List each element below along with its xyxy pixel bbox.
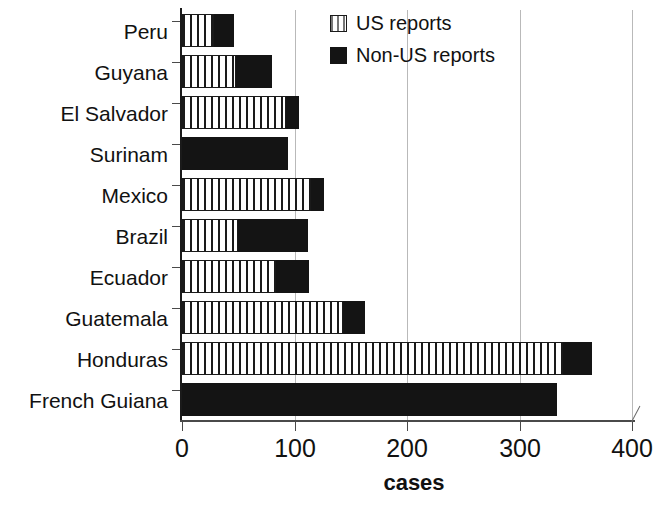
bar-segment-non-us-reports <box>182 137 288 170</box>
legend-label-us-reports: US reports <box>356 13 452 33</box>
bar-row <box>182 338 633 379</box>
bar-segment-us-reports <box>182 55 236 88</box>
bar-row <box>182 133 633 174</box>
bar-row <box>182 379 633 420</box>
bar-row <box>182 215 633 256</box>
bar-segment-non-us-reports <box>563 342 592 375</box>
x-axis-label-100: 100 <box>255 434 335 462</box>
solid-black-swatch-icon <box>330 47 347 64</box>
legend-label-non-us-reports: Non-US reports <box>356 45 495 65</box>
bar-segment-non-us-reports <box>311 178 325 211</box>
y-axis-label-5: Brazil <box>0 226 168 248</box>
y-axis-label-1: Guyana <box>0 62 168 84</box>
y-axis-label-0: Peru <box>0 21 168 43</box>
y-axis-label-9: French Guiana <box>0 390 168 412</box>
x-axis-tick-200 <box>407 422 408 431</box>
bar-segment-us-reports <box>182 14 214 47</box>
x-axis-label-0: 0 <box>142 434 222 462</box>
bar-segment-non-us-reports <box>276 260 310 293</box>
y-axis-labels: Peru Guyana El Salvador Surinam Mexico B… <box>0 10 176 420</box>
bar-segment-non-us-reports <box>238 219 308 252</box>
bar-segment-non-us-reports <box>286 96 300 129</box>
chart-legend: US reports Non-US reports <box>330 12 495 76</box>
x-axis-label-400: 400 <box>592 434 668 462</box>
x-axis-label-300: 300 <box>480 434 560 462</box>
x-axis-tick-0 <box>182 422 183 431</box>
stacked-bar[interactable] <box>182 14 234 47</box>
stacked-bar[interactable] <box>182 219 308 252</box>
y-axis-label-4: Mexico <box>0 185 168 207</box>
bar-segment-us-reports <box>182 96 286 129</box>
stacked-bar[interactable] <box>182 55 272 88</box>
stacked-bar[interactable] <box>182 301 365 334</box>
y-axis-label-7: Guatemala <box>0 308 168 330</box>
stacked-bar[interactable] <box>182 383 557 416</box>
bar-segment-non-us-reports <box>236 55 272 88</box>
bar-segment-non-us-reports <box>182 383 557 416</box>
bar-segment-non-us-reports <box>343 301 364 334</box>
y-axis-label-8: Honduras <box>0 349 168 371</box>
y-axis-label-3: Surinam <box>0 144 168 166</box>
y-axis-label-2: El Salvador <box>0 103 168 125</box>
bar-segment-us-reports <box>182 301 343 334</box>
stacked-bar[interactable] <box>182 96 299 129</box>
bar-row <box>182 297 633 338</box>
bar-row <box>182 174 633 215</box>
striped-vertical-swatch-icon <box>330 15 347 32</box>
x-axis-tick-300 <box>520 422 521 431</box>
stacked-bar[interactable] <box>182 260 309 293</box>
bar-segment-us-reports <box>182 178 311 211</box>
bar-row <box>182 92 633 133</box>
x-axis-label-200: 200 <box>367 434 447 462</box>
legend-item-non-us-reports: Non-US reports <box>330 44 495 66</box>
bar-segment-us-reports <box>182 260 276 293</box>
x-axis-tick-100 <box>295 422 296 431</box>
bar-row <box>182 256 633 297</box>
y-axis-label-6: Ecuador <box>0 267 168 289</box>
stacked-bar[interactable] <box>182 342 592 375</box>
bar-segment-us-reports <box>182 342 563 375</box>
stacked-bar[interactable] <box>182 137 288 170</box>
stacked-bar[interactable] <box>182 178 324 211</box>
x-axis-title: cases <box>0 470 668 496</box>
legend-item-us-reports: US reports <box>330 12 495 34</box>
bar-segment-non-us-reports <box>214 14 234 47</box>
bar-segment-us-reports <box>182 219 238 252</box>
bar-chart: Peru Guyana El Salvador Surinam Mexico B… <box>0 0 668 510</box>
x-axis-tick-400 <box>632 422 633 431</box>
